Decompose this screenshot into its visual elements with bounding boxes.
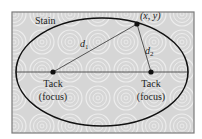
stain-label: Stain [35,15,56,26]
ellipse-foci-diagram: Stain (x, y) d1 d2 Tack (focus) Tack (fo… [0,0,202,139]
right-focus-point [148,69,153,74]
diagram-canvas: Stain (x, y) d1 d2 Tack (focus) Tack (fo… [0,0,202,139]
right-focus-label-line2: (focus) [137,91,165,103]
ellipse-point [134,21,139,26]
left-focus-label-line2: (focus) [39,91,67,103]
right-focus-label-line1: Tack [141,78,160,89]
point-label: (x, y) [140,10,161,22]
left-focus-label-line1: Tack [43,78,62,89]
left-focus-point [50,69,55,74]
